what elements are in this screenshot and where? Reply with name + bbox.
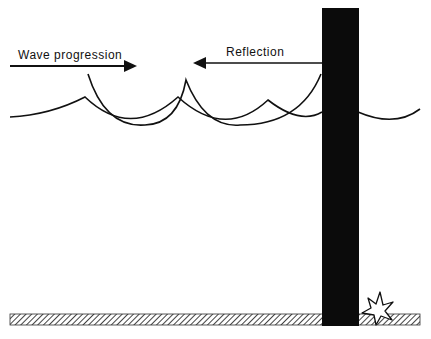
diagram-canvas: Wave progression Reflection xyxy=(0,0,431,339)
reflection-arrowhead xyxy=(193,57,206,69)
vertical-wall xyxy=(322,8,359,326)
reflection-label: Reflection xyxy=(226,45,284,59)
wave-reflection-diagram: Wave progression Reflection xyxy=(0,0,431,339)
wave-progression-arrowhead xyxy=(124,60,137,72)
transmitted-wave xyxy=(358,109,420,119)
wave-progression-label: Wave progression xyxy=(18,48,122,62)
incident-wave xyxy=(10,97,322,119)
